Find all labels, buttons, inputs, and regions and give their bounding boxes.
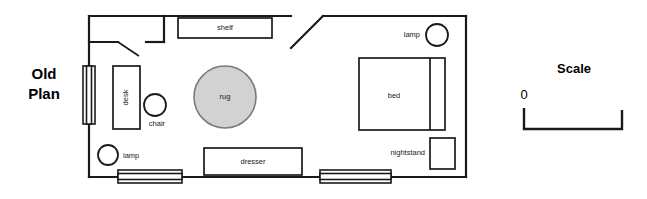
lamp-top-right-shape xyxy=(426,24,448,46)
scale-legend: Scale 0 xyxy=(520,61,622,129)
lamp-bottom-left-label: lamp xyxy=(123,151,139,160)
furniture-lamp-bottom-left: lamp xyxy=(98,145,139,165)
closet xyxy=(89,16,164,56)
dresser-label: dresser xyxy=(240,157,266,166)
plan-title-line2: Plan xyxy=(28,85,60,102)
closet-door-swing-icon xyxy=(118,42,139,56)
furniture-rug: rug xyxy=(194,66,256,128)
rug-label: rug xyxy=(220,92,231,101)
window-bottom-left-inner xyxy=(118,174,182,180)
floor-plan-drawing: Old Plan xyxy=(0,0,647,199)
furniture-dresser: dresser xyxy=(204,148,302,175)
shelf-label: shelf xyxy=(217,23,234,32)
nightstand-label: nightstand xyxy=(390,148,425,157)
furniture-lamp-top-right: lamp xyxy=(404,24,448,46)
lamp-bottom-left-shape xyxy=(98,145,118,165)
furniture-nightstand: nightstand xyxy=(390,138,455,169)
bed-shape xyxy=(359,58,445,130)
bed-label: bed xyxy=(388,91,401,100)
scale-zero-label: 0 xyxy=(520,87,527,102)
furniture-bed: bed xyxy=(359,58,445,130)
window-bottom-right-inner xyxy=(320,174,391,180)
plan-title: Old Plan xyxy=(28,65,60,102)
chair-shape xyxy=(144,94,166,116)
furniture-shelf: shelf xyxy=(178,18,272,38)
desk-label: desk xyxy=(121,89,130,105)
nightstand-shape xyxy=(430,138,455,169)
scale-title: Scale xyxy=(557,61,591,76)
window-left xyxy=(83,66,95,124)
furniture-desk: desk xyxy=(113,66,140,129)
plan-title-line1: Old xyxy=(32,65,57,82)
scale-bar-bracket xyxy=(524,108,622,129)
furniture-chair: chair xyxy=(144,94,166,128)
wall-diagonal xyxy=(291,16,323,48)
window-bottom-left xyxy=(118,170,182,183)
chair-label: chair xyxy=(149,119,166,128)
floor-plan-page: Old Plan xyxy=(0,0,647,199)
window-bottom-right xyxy=(320,170,391,183)
lamp-top-right-label: lamp xyxy=(404,30,420,39)
window-left-inner xyxy=(87,66,92,124)
